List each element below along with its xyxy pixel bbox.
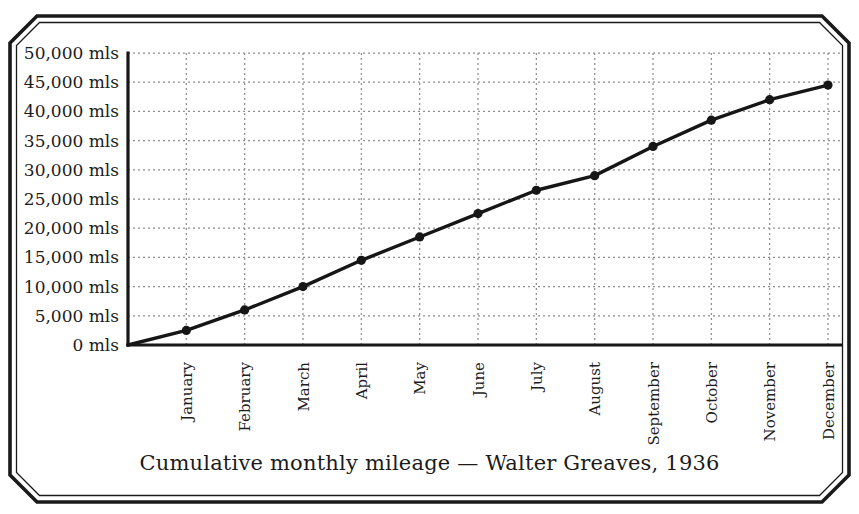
x-tick-label: June	[470, 362, 488, 398]
y-tick-label: 25,000 mls	[24, 189, 119, 209]
x-tick-label: March	[295, 362, 313, 412]
data-point	[357, 256, 366, 265]
x-tick-label: September	[645, 361, 663, 445]
y-tick-label: 20,000 mls	[24, 218, 119, 238]
y-tick-label: 35,000 mls	[24, 131, 119, 151]
y-tick-label: 0 mls	[72, 335, 119, 355]
y-tick-label: 40,000 mls	[24, 101, 119, 121]
x-tick-label: December	[820, 361, 838, 440]
x-tick-label: May	[411, 361, 429, 394]
data-point	[707, 116, 716, 125]
data-point	[240, 305, 249, 314]
y-tick-label: 45,000 mls	[24, 72, 119, 92]
data-point	[182, 326, 191, 335]
data-point	[298, 282, 307, 291]
data-point	[823, 81, 832, 90]
chart-title: Cumulative monthly mileage — Walter Grea…	[20, 451, 839, 475]
cumulative-mileage-line-chart: 50,000 mls45,000 mls40,000 mls35,000 mls…	[0, 0, 859, 514]
y-tick-label: 5,000 mls	[35, 306, 119, 326]
x-tick-label: August	[586, 362, 604, 416]
data-point	[765, 95, 774, 104]
data-point	[415, 232, 424, 241]
x-tick-label: April	[353, 362, 371, 400]
y-tick-label: 50,000 mls	[24, 43, 119, 63]
x-tick-label: October	[703, 361, 721, 423]
x-tick-label: February	[236, 361, 254, 431]
scanned-chart-page: 50,000 mls45,000 mls40,000 mls35,000 mls…	[0, 0, 859, 514]
x-tick-label: July	[528, 361, 546, 392]
data-point	[473, 209, 482, 218]
data-point	[648, 142, 657, 151]
x-tick-label: January	[178, 361, 196, 422]
y-tick-label: 30,000 mls	[24, 160, 119, 180]
y-tick-label: 10,000 mls	[24, 277, 119, 297]
y-tick-label: 15,000 mls	[24, 247, 119, 267]
data-point	[532, 186, 541, 195]
x-tick-label: November	[761, 361, 779, 441]
data-point	[590, 171, 599, 180]
